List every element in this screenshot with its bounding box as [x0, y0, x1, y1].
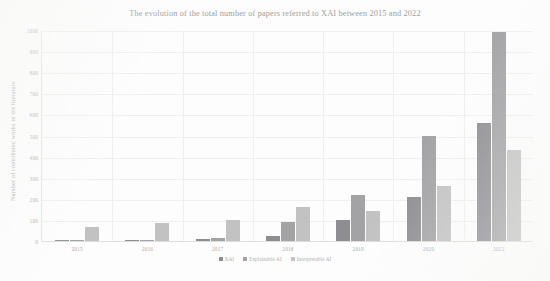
plot-area: 01002003004005006007008009001000 2015201… — [41, 31, 533, 242]
bar-xai-2016[interactable] — [125, 240, 139, 241]
bar-explainable-ai-2017[interactable] — [211, 238, 225, 241]
bar-interpretable-ai-2015[interactable] — [85, 227, 99, 241]
legend-swatch-icon — [291, 257, 295, 261]
bar-group: 2015 — [42, 31, 112, 241]
y-axis-tick-label: 800 — [30, 70, 38, 76]
legend-label: Explainable AI — [249, 256, 282, 262]
y-axis-tick-label: 200 — [30, 197, 38, 203]
bar-group: 2017 — [183, 31, 253, 241]
bar-interpretable-ai-2019[interactable] — [366, 211, 380, 241]
bar-xai-2019[interactable] — [336, 220, 350, 241]
chart-figure: The evolution of the total number of pap… — [0, 0, 550, 281]
y-axis-tick-label: 400 — [30, 155, 38, 161]
bar-xai-2018[interactable] — [266, 236, 280, 241]
bar-interpretable-ai-2017[interactable] — [226, 220, 240, 241]
legend-item-xai[interactable]: XAI — [219, 256, 235, 262]
bar-xai-2017[interactable] — [196, 239, 210, 241]
y-axis-tick-label: 700 — [30, 91, 38, 97]
x-axis-tick-label: 2022 — [493, 246, 504, 252]
legend-item-interpretable-ai[interactable]: Interpretable AI — [291, 256, 332, 262]
bar-xai-2020[interactable] — [407, 197, 421, 241]
bar-explainable-ai-2022[interactable] — [492, 32, 506, 241]
bar-explainable-ai-2019[interactable] — [351, 195, 365, 241]
bar-group: 2022 — [464, 31, 534, 241]
y-axis-tick-label: 300 — [30, 176, 38, 182]
x-axis-tick-label: 2020 — [423, 246, 434, 252]
legend-swatch-icon — [243, 257, 247, 261]
legend-label: XAI — [225, 256, 235, 262]
chart-title: The evolution of the total number of pap… — [0, 9, 550, 18]
y-axis-tick-label: 1000 — [27, 28, 38, 34]
x-axis-tick-label: 2015 — [71, 246, 82, 252]
bar-group: 2019 — [323, 31, 393, 241]
bar-interpretable-ai-2016[interactable] — [155, 223, 169, 241]
y-axis-title: Number of contributed works in the liter… — [10, 80, 16, 200]
x-axis-tick-label: 2017 — [212, 246, 223, 252]
x-axis-tick-label: 2019 — [353, 246, 364, 252]
y-axis-tick-label: 0 — [35, 239, 38, 245]
bar-interpretable-ai-2022[interactable] — [507, 150, 521, 241]
y-axis-tick-label: 500 — [30, 134, 38, 140]
x-axis-tick-label: 2016 — [142, 246, 153, 252]
bar-interpretable-ai-2020[interactable] — [437, 186, 451, 241]
bar-group: 2018 — [253, 31, 323, 241]
bar-explainable-ai-2020[interactable] — [422, 136, 436, 242]
bar-interpretable-ai-2018[interactable] — [296, 207, 310, 241]
legend-label: Interpretable AI — [297, 256, 332, 262]
bar-group: 2016 — [112, 31, 182, 241]
x-axis-tick-label: 2018 — [282, 246, 293, 252]
y-axis-tick-label: 600 — [30, 112, 38, 118]
bar-explainable-ai-2018[interactable] — [281, 222, 295, 241]
legend-item-explainable-ai[interactable]: Explainable AI — [243, 256, 282, 262]
legend-swatch-icon — [219, 257, 223, 261]
bar-xai-2015[interactable] — [55, 240, 69, 241]
y-axis-tick-label: 100 — [30, 218, 38, 224]
y-axis-tick-label: 900 — [30, 49, 38, 55]
bar-explainable-ai-2015[interactable] — [70, 240, 84, 241]
bar-xai-2022[interactable] — [477, 123, 491, 241]
bar-group: 2020 — [393, 31, 463, 241]
chart-legend: XAIExplainable AIInterpretable AI — [0, 256, 550, 262]
bar-explainable-ai-2016[interactable] — [140, 240, 154, 241]
